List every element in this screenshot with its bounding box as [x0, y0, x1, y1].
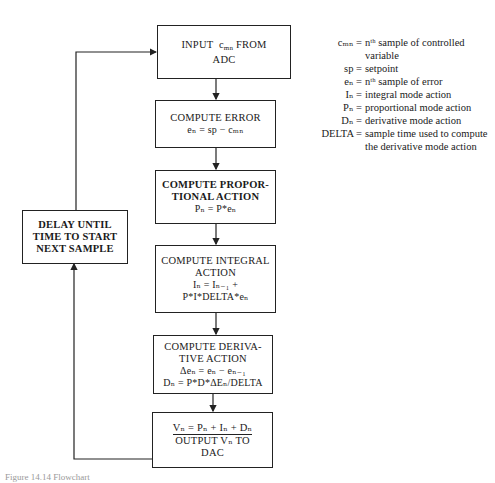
- error-box-title: COMPUTE ERROR: [170, 112, 260, 124]
- integral-box-line1: COMPUTE INTEGRAL: [161, 255, 270, 267]
- legend-row: Dₙ =derivative mode action: [300, 114, 495, 127]
- error-equation: eₙ = sp − cₘₙ: [187, 124, 243, 136]
- derivative-equation-2: Dₙ = P*D*ΔEₙ/DELTA: [163, 377, 262, 389]
- figure-caption: Figure 14.14 Flowchart: [5, 472, 90, 482]
- proportional-equation: Pₙ = P*eₙ: [195, 203, 237, 215]
- derivative-box-line1: COMPUTE DERIVA-: [164, 341, 262, 353]
- derivative-equation-1: Δeₙ = eₙ − eₙ₋₁: [180, 365, 246, 377]
- output-equation: Vₙ = Pₙ + Iₙ + Dₙ: [173, 422, 253, 435]
- legend-row: Pₙ =proportional mode action: [300, 101, 495, 114]
- integral-equation-1: Iₙ = Iₙ₋₁ +: [193, 279, 238, 291]
- legend-row: sp =setpoint: [300, 62, 495, 75]
- legend-row: Iₙ =integral mode action: [300, 88, 495, 101]
- error-box: COMPUTE ERROR eₙ = sp − cₘₙ: [155, 100, 276, 148]
- output-box: Vₙ = Pₙ + Iₙ + Dₙ OUTPUT Vₙ TO DAC: [152, 412, 273, 468]
- proportional-box-line2: TIONAL ACTION: [172, 191, 260, 203]
- delay-box-line3: NEXT SAMPLE: [36, 243, 114, 255]
- variable-legend: cₘₙ =nᵗʰ sample of controlled variable s…: [300, 36, 495, 153]
- proportional-box: COMPUTE PROPOR- TIONAL ACTION Pₙ = P*eₙ: [155, 170, 276, 224]
- delay-box-line2: TIME TO START: [33, 231, 118, 243]
- output-box-line2: OUTPUT Vₙ TO: [175, 435, 249, 447]
- delay-box-line1: DELAY UNTIL: [38, 219, 112, 231]
- integral-equation-2: P*I*DELTA*eₙ: [182, 291, 248, 303]
- legend-row: DELTA =sample time used to compute the d…: [300, 127, 495, 153]
- integral-box: COMPUTE INTEGRAL ACTION Iₙ = Iₙ₋₁ + P*I*…: [155, 245, 276, 313]
- output-box-line3: DAC: [201, 447, 224, 459]
- delay-box: DELAY UNTIL TIME TO START NEXT SAMPLE: [22, 210, 128, 264]
- proportional-box-line1: COMPUTE PROPOR-: [162, 179, 269, 191]
- input-box-line2: ADC: [213, 54, 236, 66]
- legend-row: cₘₙ =nᵗʰ sample of controlled variable: [300, 36, 495, 62]
- input-box-line1: INPUT cmn FROM: [181, 39, 266, 54]
- input-box: INPUT cmn FROM ADC: [157, 25, 291, 79]
- derivative-box-line2: TIVE ACTION: [179, 353, 247, 365]
- derivative-box: COMPUTE DERIVA- TIVE ACTION Δeₙ = eₙ − e…: [153, 335, 273, 394]
- legend-row: eₙ =nᵗʰ sample of error: [300, 75, 495, 88]
- integral-box-line2: ACTION: [195, 267, 236, 279]
